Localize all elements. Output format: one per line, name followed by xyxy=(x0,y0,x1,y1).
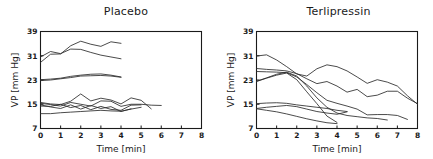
svg-text:3: 3 xyxy=(314,131,319,140)
svg-text:7: 7 xyxy=(248,124,253,133)
series-line xyxy=(41,107,142,113)
svg-text:23: 23 xyxy=(27,76,37,85)
series-line xyxy=(257,55,418,104)
svg-text:2: 2 xyxy=(78,131,83,140)
xticklabels-placebo: 012345678 xyxy=(38,131,204,140)
series-line xyxy=(257,109,338,124)
xaxis-title-terlipressin: Time [min] xyxy=(312,144,362,154)
yticklabels-placebo: 715233139 xyxy=(27,27,37,133)
svg-text:4: 4 xyxy=(334,131,339,140)
svg-text:1: 1 xyxy=(274,131,279,140)
svg-text:0: 0 xyxy=(38,131,43,140)
plot-terlipressin: 012345678 715233139 Time [min] VP [mm Hg… xyxy=(216,0,433,159)
svg-text:31: 31 xyxy=(243,52,253,61)
svg-text:39: 39 xyxy=(243,27,253,36)
svg-text:2: 2 xyxy=(294,131,299,140)
plot-placebo: 012345678 715233139 Time [min] VP [mm Hg… xyxy=(0,0,216,159)
series-group-placebo xyxy=(41,41,162,113)
axes-frame-placebo xyxy=(41,32,202,129)
svg-text:5: 5 xyxy=(355,131,360,140)
yaxis-title-terlipressin: VP [mm Hg] xyxy=(226,53,236,107)
chart-panel-terlipressin: Terlipressin 012345678 715233139 Time [m… xyxy=(216,0,433,159)
svg-text:6: 6 xyxy=(159,131,164,140)
svg-text:0: 0 xyxy=(254,131,259,140)
yaxis-title-placebo: VP [mm Hg] xyxy=(10,53,20,107)
svg-text:39: 39 xyxy=(27,27,37,36)
xaxis-title-placebo: Time [min] xyxy=(96,144,146,154)
svg-text:3: 3 xyxy=(98,131,103,140)
series-line xyxy=(41,74,122,80)
series-line xyxy=(257,73,338,122)
svg-text:15: 15 xyxy=(243,100,253,109)
svg-text:7: 7 xyxy=(32,124,37,133)
figure-container: Placebo 012345678 715233139 Time [min] V… xyxy=(0,0,433,159)
series-group-terlipressin xyxy=(257,55,418,124)
svg-text:5: 5 xyxy=(139,131,144,140)
series-line xyxy=(41,75,122,80)
svg-text:8: 8 xyxy=(415,131,420,140)
svg-text:7: 7 xyxy=(179,131,184,140)
svg-text:15: 15 xyxy=(27,100,37,109)
svg-text:23: 23 xyxy=(243,76,253,85)
svg-text:8: 8 xyxy=(199,131,204,140)
svg-text:7: 7 xyxy=(395,131,400,140)
svg-text:6: 6 xyxy=(375,131,380,140)
xticklabels-terlipressin: 012345678 xyxy=(254,131,420,140)
svg-text:31: 31 xyxy=(27,52,37,61)
yticklabels-terlipressin: 715233139 xyxy=(243,27,253,133)
chart-panel-placebo: Placebo 012345678 715233139 Time [min] V… xyxy=(0,0,216,159)
svg-text:4: 4 xyxy=(118,131,123,140)
svg-text:1: 1 xyxy=(58,131,63,140)
